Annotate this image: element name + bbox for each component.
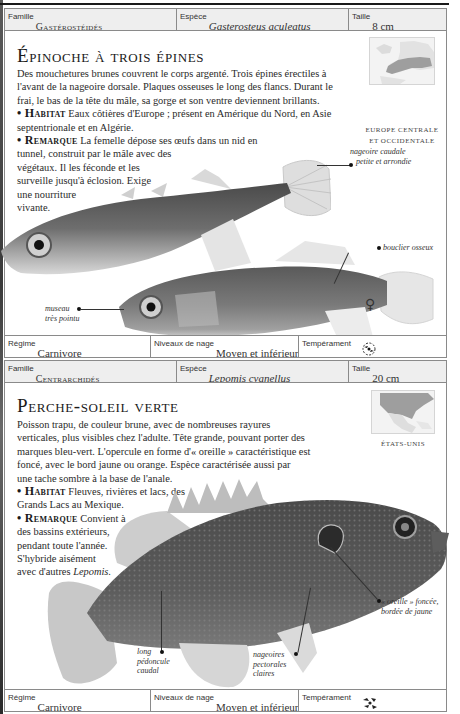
nage-value: Moyen et inférieur xyxy=(216,701,298,711)
aggressive-fish-icon xyxy=(361,342,377,357)
card-footer: RégimeCarnivore Niveaux de nageMoyen et … xyxy=(5,689,446,711)
famille-label: Famille xyxy=(8,364,34,373)
page-binding-edge xyxy=(0,0,3,714)
caudal-fin-annotation: nageoire caudale petite et arrondie xyxy=(350,147,411,166)
map-caption: États-Unis xyxy=(361,439,445,450)
bouclier-annotation: bouclier osseux xyxy=(383,243,433,253)
regime-label: Régime xyxy=(8,693,36,702)
espece-label: Espèce xyxy=(180,364,207,373)
temperament-cell: Tempérament xyxy=(299,690,446,711)
top-rule xyxy=(0,3,449,5)
aggressive-fish-icon xyxy=(361,696,379,711)
nage-cell: Niveaux de nageMoyen et inférieur xyxy=(151,690,299,711)
regime-cell: RégimeCarnivore xyxy=(5,336,151,357)
remarque-line: tunnel, construit par le mâle avec des xyxy=(17,148,171,159)
famille-cell: FamilleCentrarchidés xyxy=(5,361,177,382)
regime-value: Carnivore xyxy=(38,701,82,711)
regime-label: Régime xyxy=(8,339,36,348)
espece-label: Espèce xyxy=(180,12,207,21)
regime-cell: RégimeCarnivore xyxy=(5,690,151,711)
espece-cell: EspèceLepomis cyanellus xyxy=(177,361,349,382)
taille-cell: Taille8 cm xyxy=(349,9,446,30)
temperament-label: Tempérament xyxy=(302,693,351,702)
famille-value: Gastérostéidés xyxy=(36,21,103,30)
pectorales-leader-dot xyxy=(294,652,298,656)
famille-cell: FamilleGastérostéidés xyxy=(5,9,177,30)
north-america-map-icon xyxy=(371,390,435,434)
card-header: FamilleCentrarchidés EspèceLepomis cyane… xyxy=(5,361,446,383)
map-caption: Europe centrale et occidentale xyxy=(359,125,445,147)
species-title: Épinoche à trois épines xyxy=(17,45,204,67)
pectorales-annotation: nageoires pectorales claires xyxy=(253,650,286,679)
taille-value: 8 cm xyxy=(372,20,394,30)
famille-label: Famille xyxy=(8,12,34,21)
temperament-cell: Tempérament xyxy=(299,336,446,357)
species-title: Perche-soleil verte xyxy=(17,395,179,417)
pedoncule-annotation: long pédoncule caudal xyxy=(137,647,170,676)
taille-label: Taille xyxy=(352,364,370,373)
bouclier-leader-dot xyxy=(377,246,381,250)
espece-cell: EspèceGasterosteus aculeatus xyxy=(177,9,349,30)
nage-label: Niveaux de nage xyxy=(154,693,214,702)
taille-cell: Taille20 cm xyxy=(349,361,446,382)
pedoncule-leader-line xyxy=(161,591,162,651)
temperament-label: Tempérament xyxy=(302,339,351,348)
museau-leader-line xyxy=(80,309,124,310)
europe-map-icon xyxy=(369,37,435,85)
species-card-epinoche: FamilleGastérostéidés EspèceGasterosteus… xyxy=(4,8,447,358)
famille-value: Centrarchidés xyxy=(36,373,100,382)
card-header: FamilleGastérostéidés EspèceGasterosteus… xyxy=(5,9,446,31)
oreille-annotation: « oreille » foncée, bordée de jaune xyxy=(381,597,438,616)
caudal-leader-line xyxy=(317,165,351,166)
nage-cell: Niveaux de nageMoyen et inférieur xyxy=(151,336,299,357)
museau-annotation: museau très pointu xyxy=(45,304,79,323)
regime-value: Carnivore xyxy=(38,347,82,357)
female-symbol: ♀ xyxy=(365,296,375,312)
espece-value: Lepomis cyanellus xyxy=(209,372,291,382)
nage-value: Moyen et inférieur xyxy=(216,347,298,357)
species-card-perche-soleil: FamilleCentrarchidés EspèceLepomis cyane… xyxy=(4,360,447,712)
description-text: Des mouchetures brunes couvrent le corps… xyxy=(17,68,333,106)
stickleback-female-illustration xyxy=(115,241,445,341)
remarque-label: • Remarque xyxy=(17,133,78,147)
espece-value: Gasterosteus aculeatus xyxy=(209,20,311,30)
habitat-label: • Habitat xyxy=(17,106,66,120)
remarque-line: La femelle dépose ses œufs dans un nid e… xyxy=(80,135,257,146)
nage-label: Niveaux de nage xyxy=(154,339,214,348)
taille-value: 20 cm xyxy=(372,372,399,382)
green-sunfish-illustration xyxy=(47,473,449,693)
taille-label: Taille xyxy=(352,12,370,21)
card-footer: RégimeCarnivore Niveaux de nageMoyen et … xyxy=(5,335,446,357)
